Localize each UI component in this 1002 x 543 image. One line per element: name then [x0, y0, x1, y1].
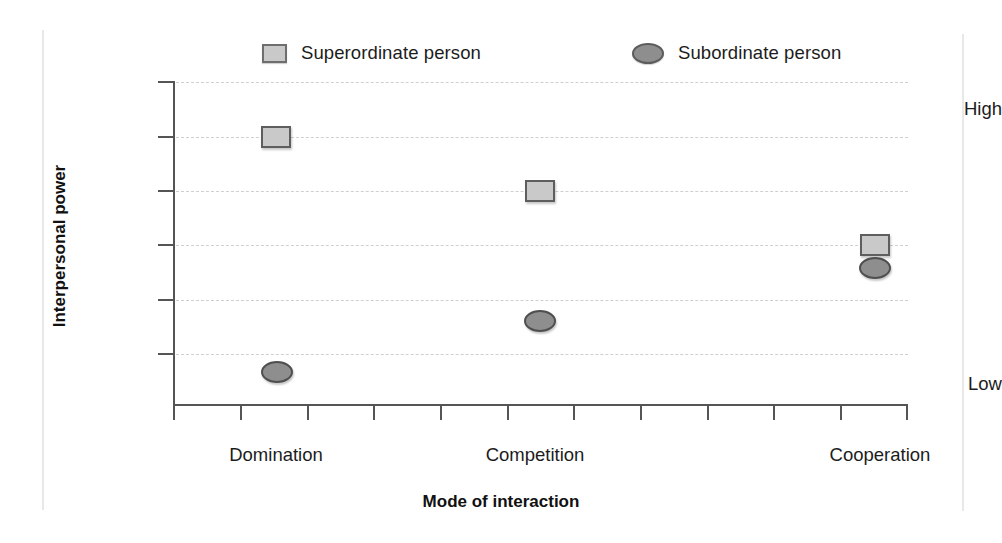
data-point-superordinate-domination: [261, 126, 291, 148]
x-tick-1: [240, 406, 242, 420]
data-point-subordinate-cooperation: [859, 257, 891, 279]
y-tick-4: [158, 136, 174, 138]
y-tick-3: [158, 190, 174, 192]
data-point-subordinate-domination: [261, 361, 293, 383]
x-tick-9: [773, 406, 775, 420]
x-tick-7: [640, 406, 642, 420]
chart-figure: Superordinate person Subordinate person: [0, 0, 1002, 543]
y-tick-1: [158, 299, 174, 301]
x-tick-8: [707, 406, 709, 420]
x-tick-label-competition: Competition: [486, 444, 585, 466]
x-tick-10: [840, 406, 842, 420]
x-axis-line: [173, 404, 908, 406]
y-tick-2: [158, 244, 174, 246]
x-tick-label-domination: Domination: [229, 444, 323, 466]
y-tick-label-low: Low: [854, 373, 1002, 395]
data-point-superordinate-cooperation: [860, 234, 890, 256]
x-tick-3: [373, 406, 375, 420]
plot-area: High Low Interpersonal power Domination …: [0, 0, 1002, 543]
gridline-1: [176, 300, 908, 301]
x-tick-label-cooperation: Cooperation: [830, 444, 931, 466]
x-tick-11: [906, 406, 908, 420]
gridline-5: [176, 82, 908, 83]
data-point-superordinate-competition: [525, 180, 555, 202]
x-tick-0: [173, 406, 175, 420]
gridline-2: [176, 245, 908, 246]
x-tick-4: [440, 406, 442, 420]
x-axis-title: Mode of interaction: [0, 492, 1002, 512]
y-tick-label-high: High: [854, 98, 1002, 120]
x-tick-6: [573, 406, 575, 420]
data-point-subordinate-competition: [524, 310, 556, 332]
y-tick-0: [158, 353, 174, 355]
y-tick-5: [158, 81, 174, 83]
y-axis-title: Interpersonal power: [50, 146, 70, 346]
y-axis-line: [173, 81, 175, 406]
x-tick-5: [507, 406, 509, 420]
x-tick-2: [307, 406, 309, 420]
gridline-0: [176, 354, 908, 355]
